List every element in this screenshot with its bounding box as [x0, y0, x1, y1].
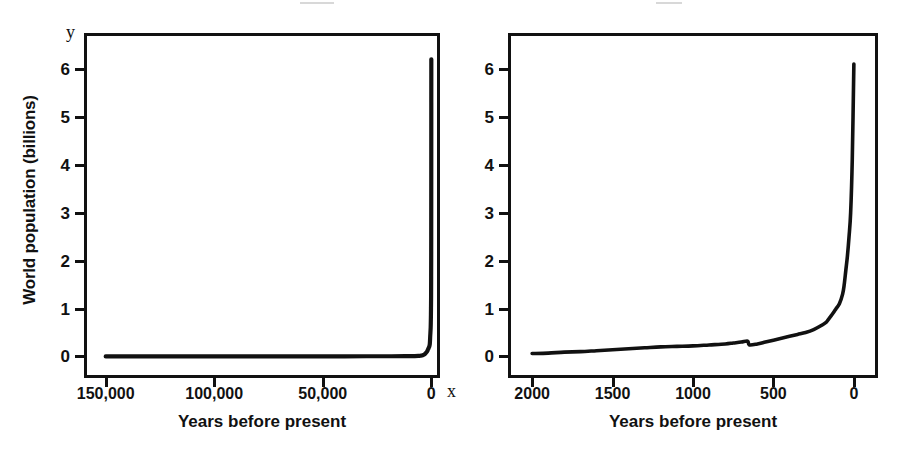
y-axis-tick-label: 0	[61, 348, 70, 365]
y-axis-tick-label: 6	[485, 60, 494, 77]
population-curve-right	[508, 33, 878, 378]
x-axis-tick-label: 100,000	[185, 385, 243, 403]
x-axis-tick-label: 150,000	[77, 385, 135, 403]
x-axis-letter: x	[447, 381, 456, 402]
y-axis-tick-label: 1	[61, 300, 70, 317]
y-axis-tick	[499, 260, 508, 263]
x-axis-tick-label: 1500	[595, 385, 631, 403]
y-axis-tick-label: 3	[61, 204, 70, 221]
x-axis-tick-label: 1000	[675, 385, 711, 403]
y-axis-tick	[75, 116, 84, 119]
population-curve-left	[84, 33, 440, 378]
scan-artifact	[300, 2, 334, 4]
curve-path	[532, 64, 854, 353]
chart-panel-left: 150,000100,00050,00000123456	[84, 33, 440, 378]
y-axis-tick-label: 6	[61, 60, 70, 77]
y-axis-tick	[499, 116, 508, 119]
x-axis-tick-label: 0	[849, 385, 858, 403]
y-axis-title-text: World population (billions)	[20, 95, 40, 305]
y-axis-tick	[75, 68, 84, 71]
y-axis-letter: y	[66, 22, 75, 43]
y-axis-tick	[75, 212, 84, 215]
y-axis-tick	[499, 164, 508, 167]
x-axis-tick-label: 2000	[514, 385, 550, 403]
chart-panel-right: 20001500100050000123456	[508, 33, 878, 378]
y-axis-tick-label: 2	[61, 252, 70, 269]
figure-world-population: World population (billions) y x 150,0001…	[0, 0, 905, 461]
x-axis-title-left: Years before present	[178, 412, 346, 432]
y-axis-tick-label: 2	[485, 252, 494, 269]
y-axis-tick-label: 5	[485, 108, 494, 125]
y-axis-tick	[75, 308, 84, 311]
y-axis-tick	[75, 355, 84, 358]
y-axis-tick-label: 5	[61, 108, 70, 125]
y-axis-title: World population (billions)	[14, 0, 46, 400]
y-axis-tick	[499, 308, 508, 311]
x-axis-tick-label: 500	[760, 385, 787, 403]
x-axis-tick-label: 0	[427, 385, 436, 403]
y-axis-tick	[75, 164, 84, 167]
curve-path	[106, 59, 432, 356]
y-axis-tick-label: 0	[485, 348, 494, 365]
y-axis-tick-label: 4	[61, 156, 70, 173]
y-axis-tick	[499, 68, 508, 71]
x-axis-tick-label: 50,000	[298, 385, 347, 403]
x-axis-title-right: Years before present	[609, 412, 777, 432]
y-axis-tick-label: 1	[485, 300, 494, 317]
scan-artifact	[656, 2, 682, 4]
y-axis-tick-label: 4	[485, 156, 494, 173]
y-axis-tick-label: 3	[485, 204, 494, 221]
y-axis-tick	[499, 212, 508, 215]
y-axis-tick	[499, 355, 508, 358]
y-axis-tick	[75, 260, 84, 263]
